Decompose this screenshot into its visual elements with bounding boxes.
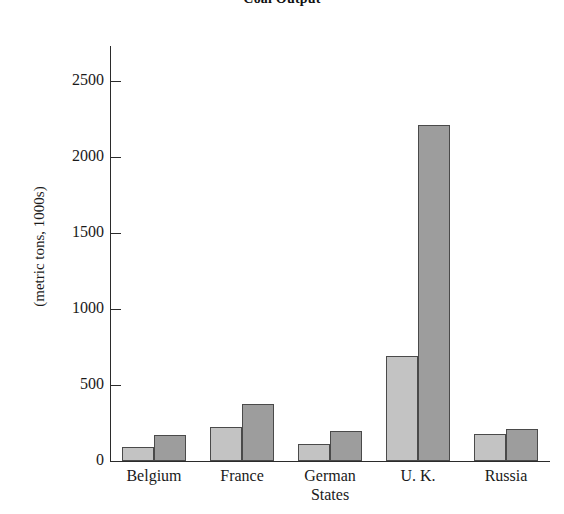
y-tick-2000: 2000	[110, 157, 121, 158]
bar-dark	[418, 125, 450, 461]
bar-light	[386, 356, 418, 461]
y-axis-label: (metric tons, 1000s)	[31, 112, 48, 382]
y-tick-mark	[111, 157, 121, 158]
y-tick-mark	[111, 309, 121, 310]
bar-light	[210, 427, 242, 461]
x-axis-label: Russia	[452, 466, 560, 485]
y-tick-label: 1500	[72, 224, 104, 240]
chart-title: Coal Output	[0, 0, 564, 7]
bar-group	[474, 46, 538, 461]
y-tick-mark	[111, 385, 121, 386]
bar-dark	[242, 404, 274, 461]
chart-figure: Coal Output (metric tons, 1000s) 0500100…	[0, 0, 564, 514]
bar-group	[210, 46, 274, 461]
bar-group	[386, 46, 450, 461]
bar-group	[298, 46, 362, 461]
bar-dark	[154, 435, 186, 461]
bar-light	[474, 434, 506, 461]
y-tick-mark	[111, 81, 121, 82]
y-axis-line	[110, 46, 111, 462]
y-tick-label: 500	[80, 376, 104, 392]
bar-dark	[506, 429, 538, 461]
y-tick-mark	[111, 461, 121, 462]
plot-area: 05001000150020002500 BelgiumFranceGerman…	[110, 46, 550, 462]
bar-dark	[330, 431, 362, 461]
y-tick-label: 2000	[72, 148, 104, 164]
y-tick-label: 1000	[72, 300, 104, 316]
y-tick-2500: 2500	[110, 81, 121, 82]
y-tick-mark	[111, 233, 121, 234]
y-tick-500: 500	[110, 385, 121, 386]
x-axis-line	[110, 461, 550, 462]
bar-light	[122, 447, 154, 461]
y-tick-label: 2500	[72, 72, 104, 88]
y-tick-0: 0	[110, 461, 121, 462]
bar-group	[122, 46, 186, 461]
bar-light	[298, 444, 330, 461]
y-tick-1000: 1000	[110, 309, 121, 310]
y-tick-1500: 1500	[110, 233, 121, 234]
